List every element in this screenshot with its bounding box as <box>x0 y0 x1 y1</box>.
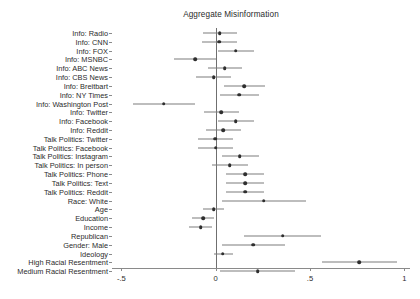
y-axis-label-23: Republican <box>71 231 108 240</box>
y-axis-label-6: Info: Breitbart <box>64 81 108 90</box>
estimate-point <box>252 243 256 247</box>
y-axis-tick <box>109 165 112 166</box>
plot-area <box>112 28 410 268</box>
estimate-point <box>223 66 227 70</box>
estimate-point <box>212 75 216 79</box>
estimate-point <box>214 137 218 141</box>
estimate-point <box>256 269 260 273</box>
y-axis-tick <box>109 227 112 228</box>
y-axis-label-20: Age <box>95 205 108 214</box>
y-axis-tick <box>109 262 112 263</box>
y-axis-label-13: Talk Politics: Facebook <box>33 143 108 152</box>
estimate-point <box>234 49 238 53</box>
y-axis-tick <box>109 95 112 96</box>
y-axis-tick <box>109 201 112 202</box>
y-axis-tick <box>109 104 112 105</box>
y-axis-label-18: Talk Politics: Reddit <box>44 187 108 196</box>
y-axis-label-2: Info: FOX <box>76 46 108 55</box>
y-axis-tick <box>109 148 112 149</box>
y-axis-label-15: Talk Politics: In person <box>34 161 108 170</box>
y-axis-tick <box>109 68 112 69</box>
estimate-point <box>193 58 197 62</box>
x-axis-tick-label: 1 <box>402 274 406 283</box>
estimate-point <box>357 261 361 265</box>
y-axis-tick <box>109 254 112 255</box>
estimate-point <box>262 199 266 203</box>
y-axis-label-24: Gender: Male <box>63 240 108 249</box>
x-axis-tick-label: -.5 <box>117 274 126 283</box>
y-axis-tick <box>109 156 112 157</box>
estimate-point <box>214 146 218 150</box>
estimate-point <box>243 181 247 185</box>
y-axis-tick <box>109 174 112 175</box>
y-axis-tick <box>109 236 112 237</box>
y-axis-tick <box>109 42 112 43</box>
y-axis-label-16: Talk Politics: Phone <box>44 170 108 179</box>
y-axis-label-25: Ideology <box>80 249 108 258</box>
y-axis-label-11: Info: Reddit <box>70 126 108 135</box>
x-axis-tick <box>404 268 405 271</box>
y-axis-label-0: Info: Radio <box>72 29 108 38</box>
y-axis-label-21: Education <box>75 214 108 223</box>
y-axis-label-5: Info: CBS News <box>56 73 108 82</box>
y-axis-label-19: Race: White <box>68 196 108 205</box>
y-axis-tick <box>109 192 112 193</box>
estimate-point <box>243 172 247 176</box>
y-axis-label-17: Talk Politics: Text <box>52 178 108 187</box>
y-axis-label-27: Medium Racial Resentment <box>17 267 108 276</box>
y-axis-tick <box>109 183 112 184</box>
x-axis-tick <box>216 268 217 271</box>
estimate-point <box>281 234 285 238</box>
estimate-point <box>243 84 247 88</box>
estimate-point <box>243 190 247 194</box>
y-axis-tick <box>109 121 112 122</box>
y-axis-label-26: High Racial Resentment <box>28 258 108 267</box>
y-axis-tick <box>109 245 112 246</box>
estimate-point <box>234 119 238 123</box>
estimate-point <box>162 102 166 106</box>
y-axis-tick <box>109 218 112 219</box>
y-axis-tick <box>109 77 112 78</box>
estimate-point <box>238 93 242 97</box>
x-axis-tick <box>310 268 311 271</box>
estimate-point <box>217 40 221 44</box>
estimate-point <box>221 252 225 256</box>
y-axis-label-4: Info: ABC News <box>56 64 108 73</box>
estimate-point <box>238 155 242 159</box>
y-axis-label-8: Info: Washington Post <box>36 99 108 108</box>
page-title: Aggregate Misinformation <box>0 10 420 19</box>
y-axis-tick <box>109 51 112 52</box>
y-axis-tick <box>109 209 112 210</box>
y-axis-label-7: Info: NY Times <box>60 90 108 99</box>
x-axis-line <box>112 268 410 269</box>
y-axis-label-9: Info: Twitter <box>70 108 108 117</box>
estimate-point <box>218 31 222 35</box>
y-axis-label-12: Talk Politics: Twitter <box>44 134 108 143</box>
y-axis-tick <box>109 86 112 87</box>
y-axis-tick <box>109 271 112 272</box>
x-axis-tick <box>121 268 122 271</box>
y-axis-label-1: Info: CNN <box>76 37 108 46</box>
y-axis-label-14: Talk Politics: Instagram <box>32 152 108 161</box>
y-axis-tick <box>109 59 112 60</box>
y-axis-tick <box>109 33 112 34</box>
y-axis-label-3: Info: MSNBC <box>65 55 108 64</box>
estimate-point <box>228 164 232 168</box>
estimate-point <box>212 208 216 212</box>
y-axis-tick <box>109 112 112 113</box>
x-axis-tick-label: .5 <box>307 274 313 283</box>
estimate-point <box>199 225 203 229</box>
x-axis-tick-label: 0 <box>214 274 218 283</box>
y-axis-tick <box>109 139 112 140</box>
y-axis-label-10: Info: Facebook <box>59 117 108 126</box>
y-axis-tick <box>109 130 112 131</box>
estimate-point <box>201 216 205 220</box>
coefficient-plot-figure: Aggregate Misinformation Info: RadioInfo… <box>0 0 420 299</box>
y-axis-label-22: Income <box>84 223 108 232</box>
estimate-point <box>221 128 225 132</box>
estimate-point <box>220 111 224 115</box>
